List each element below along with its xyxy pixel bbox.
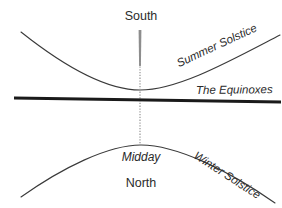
label-midday: Midday	[0, 151, 282, 163]
label-north: North	[0, 177, 282, 190]
celestial-path-diagram: South Summer Solstice The Equinoxes Midd…	[0, 0, 282, 208]
equinox-line	[14, 98, 281, 102]
label-south: South	[0, 10, 282, 23]
label-equinoxes: The Equinoxes	[196, 84, 273, 96]
meridian-spike-icon	[139, 30, 142, 66]
